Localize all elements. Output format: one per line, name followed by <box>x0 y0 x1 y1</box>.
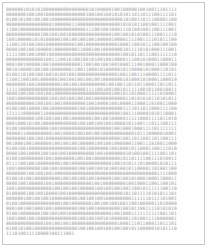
binary-row: 0000100100100000100000000110001001000000… <box>6 47 201 52</box>
binary-page: 0000001010101000000000000000010100000100… <box>2 2 205 245</box>
binary-row: 1001000100100000000000000100100100101000… <box>6 216 201 221</box>
binary-row: 0000000100100000000100100100000000010010… <box>6 82 201 87</box>
binary-page-content: 0000001010101000000000000000010100000100… <box>6 7 201 242</box>
binary-row: 0100101001000000000000000100100100100100… <box>6 226 201 231</box>
binary-row: 1111100100100010000000000000000000000000… <box>6 52 201 57</box>
binary-row: 0000000000000100100100100000000000000001… <box>6 221 201 226</box>
binary-row: 0010100001001001000000011001100010100000… <box>6 67 201 72</box>
binary-row: 0100110100100100101001001000000000000001… <box>6 72 201 77</box>
binary-row: 0100100000001001001001000000000000000100… <box>6 211 201 216</box>
binary-row: 111010011110000100111001 <box>6 231 201 236</box>
binary-row: 0000000000000100111001010010010100100100… <box>6 57 201 62</box>
binary-row: 0001001000001001000000000011001001001001… <box>6 62 201 67</box>
binary-digit-block: 0000001010101000000000000000010100000100… <box>6 7 201 236</box>
binary-row: 1100110010010000001001001001001001000000… <box>6 77 201 82</box>
binary-row: 0001001001000100100000000100100100000000… <box>6 206 201 211</box>
